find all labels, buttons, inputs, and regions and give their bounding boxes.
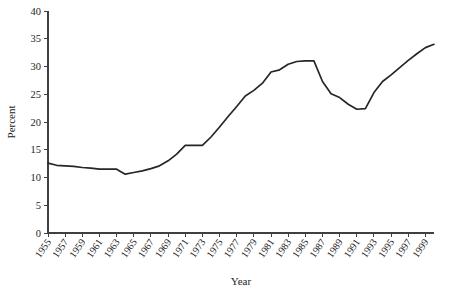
y-axis-tick-label: 15 — [31, 144, 42, 155]
y-axis-tick-label: 35 — [31, 33, 42, 44]
y-axis-title: Percent — [5, 106, 17, 139]
y-axis-tick-label: 40 — [31, 6, 42, 17]
y-axis-tick-label: 5 — [36, 200, 41, 211]
y-axis-tick-label: 10 — [31, 172, 42, 183]
line-chart-figure: 0510152025303540 19551957195919611963196… — [0, 0, 452, 293]
y-axis-tick-label: 20 — [31, 117, 42, 128]
chart-canvas: 0510152025303540 19551957195919611963196… — [0, 0, 452, 293]
y-axis-tick-label: 30 — [31, 61, 42, 72]
x-axis-title: Year — [231, 275, 252, 287]
y-axis-tick-label: 0 — [36, 228, 41, 239]
y-axis-tick-label: 25 — [31, 89, 42, 100]
